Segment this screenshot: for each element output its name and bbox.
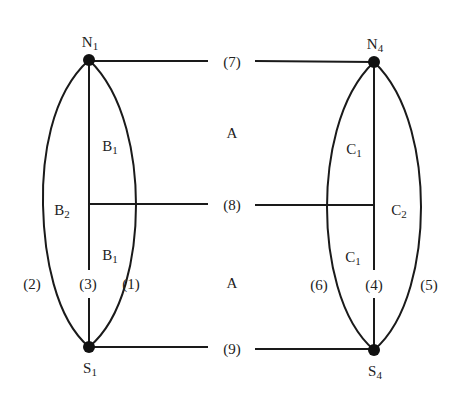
edge-label-5: (5) <box>420 278 438 293</box>
node-label-s1: S1 <box>83 361 97 376</box>
region-label-c1-upper: C1 <box>346 142 362 157</box>
region-label-a-upper: A <box>227 126 238 141</box>
edge-7-right <box>255 61 374 62</box>
node-label-n4: N4 <box>367 37 383 52</box>
edge-label-6: (6) <box>310 278 328 293</box>
edge-label-4: (4) <box>365 278 383 293</box>
edge-label-8: (8) <box>223 198 241 213</box>
node-s4-dot <box>368 344 380 356</box>
region-label-a-lower: A <box>227 276 238 291</box>
edge-label-3: (3) <box>79 277 97 292</box>
region-label-b1-upper: B1 <box>102 139 118 154</box>
region-label-b2: B2 <box>54 203 70 218</box>
edge-label-2: (2) <box>23 277 41 292</box>
edge-label-1: (1) <box>122 277 140 292</box>
node-n4-dot <box>368 56 380 68</box>
edge-label-9: (9) <box>223 342 241 357</box>
node-label-n1: N1 <box>82 35 98 50</box>
node-label-s4: S4 <box>368 364 382 379</box>
node-n1-dot <box>83 54 95 66</box>
node-s1-dot <box>83 341 95 353</box>
region-label-b1-lower: B1 <box>102 248 118 263</box>
region-label-c2: C2 <box>391 203 407 218</box>
edge-label-7: (7) <box>223 55 241 70</box>
region-label-c1-lower: C1 <box>345 250 361 265</box>
